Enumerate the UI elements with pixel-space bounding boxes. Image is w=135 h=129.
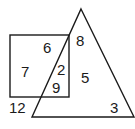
venn-diagram: 6 7 2 9 8 5 3 12	[0, 0, 135, 129]
region-label-5: 5	[81, 69, 89, 86]
region-label-12: 12	[9, 99, 26, 116]
region-label-2: 2	[57, 61, 65, 78]
region-label-3: 3	[110, 99, 118, 116]
region-label-8: 8	[76, 32, 84, 49]
triangle-shape	[32, 9, 134, 117]
region-label-9: 9	[52, 79, 60, 96]
region-label-7: 7	[21, 63, 29, 80]
region-label-6: 6	[43, 39, 51, 56]
